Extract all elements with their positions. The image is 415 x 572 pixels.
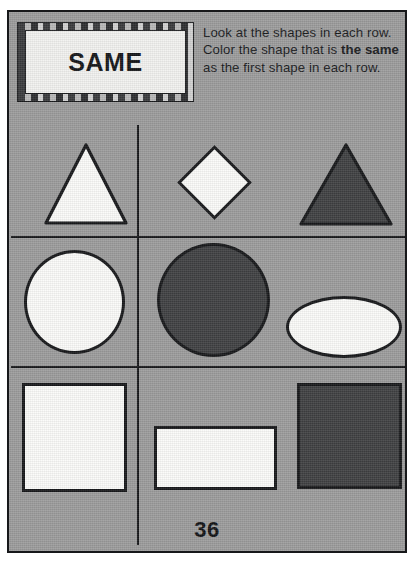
- row2-reference-circle-unfilled[interactable]: [24, 250, 125, 354]
- row3-answer-square-colored[interactable]: [297, 383, 402, 489]
- row1-reference-triangle-outline: [42, 141, 130, 227]
- row3-choice-rectangle-unfilled[interactable]: [154, 426, 277, 490]
- row1-choice-diamond-unfilled[interactable]: [177, 145, 252, 220]
- row1-answer-triangle-colored[interactable]: [297, 141, 395, 229]
- page-title: SAME: [68, 48, 143, 77]
- page-number: 36: [9, 517, 405, 543]
- worksheet-sheet: SAME Look at the shapes in each row. Col…: [7, 10, 407, 553]
- instructions-part-2: as the first shape in each row.: [203, 60, 381, 75]
- grid-divider-row1-row2: [11, 236, 405, 238]
- row2-answer-circle-colored[interactable]: [157, 243, 270, 357]
- worksheet-page: SAME Look at the shapes in each row. Col…: [0, 0, 415, 572]
- title-banner-inner: SAME: [25, 30, 186, 94]
- title-banner: SAME: [17, 22, 194, 102]
- row3-reference-square-unfilled[interactable]: [22, 383, 127, 492]
- grid-divider-row2-row3: [11, 366, 405, 368]
- instructions-text: Look at the shapes in each row. Color th…: [203, 24, 401, 76]
- grid-divider-vertical: [137, 125, 139, 545]
- row2-choice-ellipse-unfilled[interactable]: [286, 296, 402, 358]
- instructions-emphasis: the same: [341, 42, 399, 57]
